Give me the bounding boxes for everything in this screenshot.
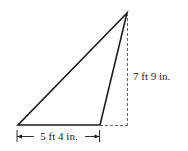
height-label: 7 ft 9 in. [133, 70, 171, 82]
triangle-diagram: 5 ft 4 in. 7 ft 9 in. [0, 0, 188, 151]
base-dimension: 5 ft 4 in. [17, 130, 100, 142]
arrow-right-icon [95, 135, 100, 139]
base-label: 5 ft 4 in. [40, 130, 78, 142]
arrow-left-icon [17, 135, 22, 139]
triangle [18, 13, 127, 125]
